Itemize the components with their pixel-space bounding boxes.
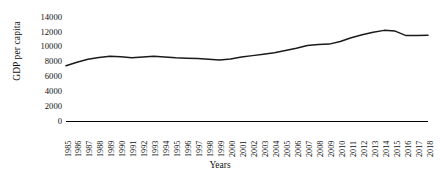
x-tick-2014: 2014: [381, 117, 392, 157]
x-tick-2005: 2005: [282, 117, 293, 157]
x-tick-2013: 2013: [370, 117, 381, 157]
x-tick-1985: 1985: [63, 117, 74, 157]
x-tick-1993: 1993: [150, 117, 161, 157]
y-tick-8000: 8000: [26, 57, 62, 66]
x-axis-title: Years: [0, 160, 440, 170]
x-tick-2008: 2008: [315, 117, 326, 157]
y-tick-6000: 6000: [26, 72, 62, 81]
plot-area: [66, 17, 428, 121]
x-tick-2012: 2012: [359, 117, 370, 157]
x-tick-1992: 1992: [139, 117, 150, 157]
x-tick-2018: 2018: [425, 117, 436, 157]
x-tick-1989: 1989: [106, 117, 117, 157]
y-tick-4000: 4000: [26, 87, 62, 96]
y-tick-2000: 2000: [26, 102, 62, 111]
x-tick-1991: 1991: [128, 117, 139, 157]
x-tick-1997: 1997: [194, 117, 205, 157]
x-tick-1999: 1999: [216, 117, 227, 157]
x-tick-2017: 2017: [414, 117, 425, 157]
x-tick-2009: 2009: [326, 117, 337, 157]
gdp-per-capita-line: [66, 30, 428, 65]
x-tick-2002: 2002: [249, 117, 260, 157]
x-tick-1990: 1990: [117, 117, 128, 157]
x-tick-2011: 2011: [348, 117, 359, 157]
y-tick-0: 0: [26, 117, 62, 126]
x-tick-2001: 2001: [238, 117, 249, 157]
x-axis-tick-labels: 1985198619871988198919901991199219931994…: [66, 121, 428, 163]
line-series-svg: [66, 17, 428, 121]
x-tick-2015: 2015: [392, 117, 403, 157]
x-tick-2004: 2004: [271, 117, 282, 157]
chart-figure: GDP per capita 0200040006000800010000120…: [0, 0, 440, 183]
x-tick-1994: 1994: [161, 117, 172, 157]
x-tick-1988: 1988: [95, 117, 106, 157]
x-tick-2016: 2016: [403, 117, 414, 157]
x-tick-2007: 2007: [304, 117, 315, 157]
y-axis-tick-labels: 02000400060008000100001200014000: [26, 0, 62, 183]
x-tick-2003: 2003: [260, 117, 271, 157]
y-axis-title: GDP per capita: [12, 1, 26, 101]
x-tick-1998: 1998: [205, 117, 216, 157]
x-tick-1986: 1986: [73, 117, 84, 157]
x-tick-2000: 2000: [227, 117, 238, 157]
x-tick-1995: 1995: [172, 117, 183, 157]
y-tick-12000: 12000: [26, 28, 62, 37]
x-tick-2006: 2006: [293, 117, 304, 157]
x-tick-1996: 1996: [183, 117, 194, 157]
y-tick-14000: 14000: [26, 13, 62, 22]
y-tick-10000: 10000: [26, 42, 62, 51]
x-tick-2010: 2010: [337, 117, 348, 157]
x-tick-1987: 1987: [84, 117, 95, 157]
